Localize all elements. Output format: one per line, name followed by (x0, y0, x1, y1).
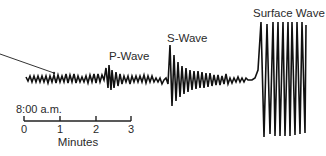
seismogram-svg (0, 0, 326, 156)
seismic-trace (26, 22, 306, 137)
p-wave-label: P-Wave (109, 51, 149, 63)
s-wave-label: S-Wave (167, 33, 207, 45)
axis-title: Minutes (58, 137, 98, 149)
time-axis (24, 116, 131, 121)
tick-label-0: 0 (21, 124, 27, 135)
seismogram-diagram: P-Wave S-Wave Surface Wave 8:00 a.m. 0 1… (0, 0, 326, 156)
surface-wave-label: Surface Wave (253, 8, 325, 20)
tick-label-3: 3 (128, 124, 134, 135)
tick-label-1: 1 (57, 124, 63, 135)
tick-label-2: 2 (93, 124, 99, 135)
pointer-line (0, 54, 54, 73)
start-time-label: 8:00 a.m. (16, 104, 62, 115)
